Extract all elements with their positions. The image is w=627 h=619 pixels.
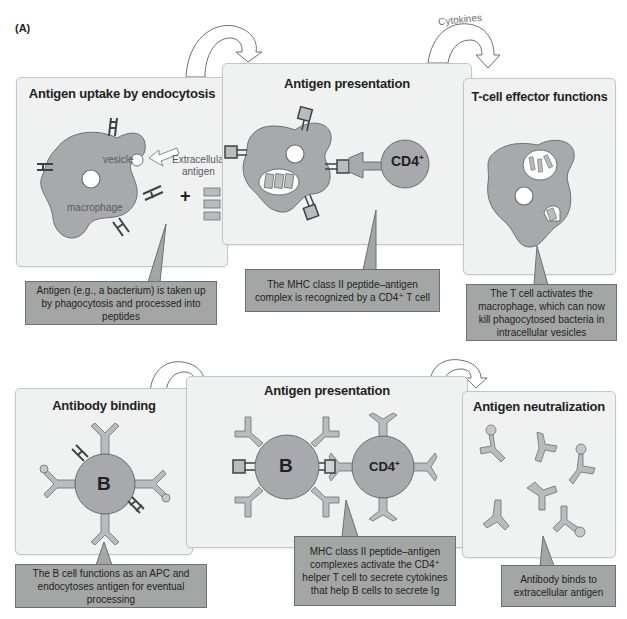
callout-antibody-neutralization: Antibody binds to extracellular antigen xyxy=(501,565,616,607)
callout-pointers-bottom xyxy=(0,0,627,619)
callout-b-cell-apc: The B cell functions as an APC and endoc… xyxy=(15,564,207,608)
callout-cd4-activation: MHC class II peptide–antigen complexes a… xyxy=(294,536,456,606)
